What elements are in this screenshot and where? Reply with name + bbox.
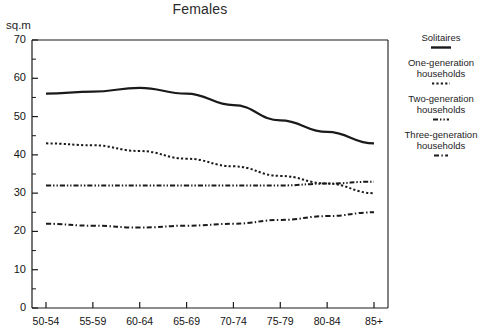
y-axis-tick-label: 10 [4,263,26,275]
x-axis-tick-label: 85+ [351,315,397,327]
legend-item-two-generation: Two-generation households [398,93,484,123]
legend-label: Two-generation households [398,93,484,115]
legend-item-three-generation: Three-generation households [398,129,484,159]
data-series-group [46,88,374,228]
y-axis-tick-label: 20 [4,224,26,236]
series-line-3 [46,212,374,227]
x-axis-tick-label: 70-74 [210,315,256,327]
x-axis-tick-label: 75-79 [257,315,303,327]
dash-dot-dot-line-swatch [429,116,453,123]
y-axis-tick-label: 50 [4,110,26,122]
legend-item-one-generation: One-generation households [398,57,484,87]
legend-label: Solitaires [398,32,484,43]
y-axis-tick-label: 0 [4,301,26,313]
dash-dot-line-swatch [429,152,453,159]
legend-item-solitaires: Solitaires [398,32,484,51]
axis-lines [32,40,388,308]
x-axis-tick-label: 65-69 [164,315,210,327]
x-axis-tick-label: 55-59 [70,315,116,327]
y-axis-tick-label: 30 [4,186,26,198]
x-axis-tick-label: 50-54 [23,315,69,327]
x-axis-ticks [46,302,374,308]
solid-line-swatch [429,44,453,51]
chart-container: Females sq.m 706050403020100 50-5455-596… [0,0,484,336]
legend-label: Three-generation households [398,129,484,151]
y-axis-tick-label: 40 [4,148,26,160]
y-axis-tick-label: 60 [4,71,26,83]
series-line-2 [46,182,374,186]
chart-legend: Solitaires One-generation households Two… [398,32,484,165]
x-axis-tick-label: 60-64 [117,315,163,327]
x-axis-tick-label: 80-84 [304,315,350,327]
y-axis-tick-label: 70 [4,33,26,45]
series-line-0 [46,88,374,144]
legend-label: One-generation households [398,57,484,79]
y-axis-ticks [32,40,38,308]
dotted-line-swatch [429,80,453,87]
